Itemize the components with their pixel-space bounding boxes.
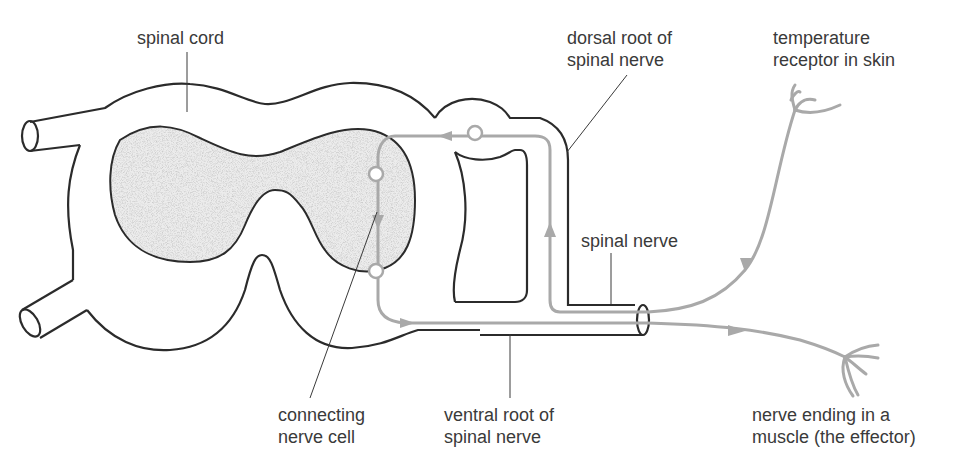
- sensory-neuron-dorsal: [480, 136, 648, 312]
- connecting-cell-body-upper-icon: [369, 167, 383, 181]
- grey-matter: [110, 127, 415, 272]
- label-spinal-cord: spinal cord: [137, 27, 224, 49]
- arrow-effector-right-icon: [728, 325, 745, 336]
- label-effector-line1: nerve ending in a: [752, 404, 890, 426]
- arrow-ganglion-left-icon: [438, 131, 452, 141]
- label-effector-line2: muscle (the effector): [752, 426, 916, 448]
- label-connecting-line1: connecting: [278, 404, 365, 426]
- arrow-dorsal-up-icon: [544, 222, 556, 237]
- label-receptor-line1: temperature: [773, 27, 870, 49]
- arrow-ventral-right-icon: [400, 318, 415, 328]
- label-receptor-line2: receptor in skin: [773, 49, 895, 71]
- label-dorsal-root-line1: dorsal root of: [567, 27, 672, 49]
- sensory-cell-body-icon: [468, 126, 482, 140]
- label-connecting-line2: nerve cell: [278, 426, 355, 448]
- dorsal-root: [435, 99, 635, 305]
- ventral-root: [418, 305, 649, 335]
- label-ventral-root-line2: spinal nerve: [444, 426, 541, 448]
- leader-dorsal-root: [567, 75, 627, 152]
- sensory-neuron-peripheral: [648, 110, 795, 312]
- label-dorsal-root-line2: spinal nerve: [567, 49, 664, 71]
- connecting-cell-body-lower-icon: [369, 264, 383, 278]
- label-ventral-root-line1: ventral root of: [444, 404, 554, 426]
- ventral-fissure: [245, 255, 262, 290]
- label-spinal-nerve: spinal nerve: [581, 230, 678, 252]
